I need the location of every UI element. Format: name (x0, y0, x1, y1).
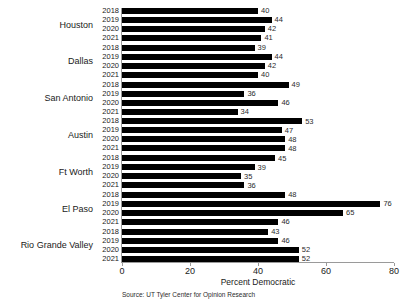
bar-row: 45 (122, 155, 394, 161)
bar-value-label: 34 (241, 108, 249, 116)
bar-value-label: 44 (275, 53, 283, 61)
bar (122, 17, 272, 23)
bar-row: 41 (122, 35, 394, 41)
bar (122, 164, 255, 170)
x-tick-label: 0 (119, 266, 124, 276)
year-axis-labels: 2018201920202021201820192020202120182019… (96, 8, 119, 262)
bar-row: 76 (122, 201, 394, 207)
bar-value-label: 41 (264, 34, 272, 42)
category-axis-labels: HoustonDallasSan AntonioAustinFt WorthEl… (0, 8, 93, 262)
category-label-slot: Ft Worth (0, 155, 93, 188)
bar (122, 219, 278, 225)
bar (122, 91, 244, 97)
bar (122, 229, 268, 235)
source-note: Source: UT Tyler Center for Opinion Rese… (122, 291, 255, 298)
year-label: 2018 (96, 82, 119, 88)
bar-row: 47 (122, 127, 394, 133)
bar-group: 43465252 (122, 229, 394, 262)
category-label-slot: Houston (0, 8, 93, 41)
bar-value-label: 44 (275, 16, 283, 24)
bar-value-label: 42 (268, 62, 276, 70)
year-label: 2021 (96, 256, 119, 262)
bar-row: 35 (122, 173, 394, 179)
bar-value-label: 39 (258, 44, 266, 52)
year-label: 2019 (96, 238, 119, 244)
year-label: 2020 (96, 136, 119, 142)
x-tick-label: 60 (321, 266, 331, 276)
bar-group: 39444240 (122, 45, 394, 78)
bar (122, 54, 272, 60)
bar-row: 43 (122, 229, 394, 235)
bar (122, 247, 299, 253)
year-label: 2019 (96, 17, 119, 23)
bar (122, 109, 238, 115)
bar-row: 46 (122, 238, 394, 244)
bar-value-label: 40 (261, 71, 269, 79)
year-label: 2019 (96, 201, 119, 207)
year-label: 2021 (96, 219, 119, 225)
category-label-slot: San Antonio (0, 82, 93, 115)
bar-row: 52 (122, 247, 394, 253)
category-label: Houston (59, 20, 93, 30)
bar-value-label: 48 (288, 191, 296, 199)
bar (122, 136, 285, 142)
bar-row: 46 (122, 219, 394, 225)
bar-row: 44 (122, 54, 394, 60)
bar-group: 48766546 (122, 192, 394, 225)
bar (122, 127, 282, 133)
year-label: 2019 (96, 54, 119, 60)
year-label-group: 2018201920202021 (96, 82, 119, 115)
bar-row: 42 (122, 63, 394, 69)
bar-value-label: 42 (268, 25, 276, 33)
bar (122, 8, 258, 14)
bar-row: 52 (122, 256, 394, 262)
bar (122, 256, 299, 262)
bar-row: 46 (122, 100, 394, 106)
bar (122, 155, 275, 161)
category-label: El Paso (62, 204, 93, 214)
year-label: 2019 (96, 91, 119, 97)
year-label: 2021 (96, 182, 119, 188)
x-tick-label: 40 (253, 266, 263, 276)
bar (122, 145, 285, 151)
bar-group: 45393536 (122, 155, 394, 188)
bar-row: 40 (122, 8, 394, 14)
year-label: 2019 (96, 164, 119, 170)
bar-row: 48 (122, 145, 394, 151)
year-label: 2018 (96, 118, 119, 124)
bar (122, 45, 255, 51)
x-tick-label: 20 (185, 266, 195, 276)
category-label-slot: Dallas (0, 45, 93, 78)
bar-row: 36 (122, 91, 394, 97)
year-label-group: 2018201920202021 (96, 155, 119, 188)
year-label: 2020 (96, 63, 119, 69)
year-label: 2020 (96, 247, 119, 253)
bar-group: 53474848 (122, 118, 394, 151)
bar-value-label: 35 (244, 173, 252, 181)
bar-groups: 4044424139444240493646345347484845393536… (122, 8, 394, 262)
bar (122, 210, 343, 216)
year-label: 2018 (96, 155, 119, 161)
bar-value-label: 39 (258, 164, 266, 172)
bar (122, 173, 241, 179)
bar-row: 53 (122, 118, 394, 124)
bar-value-label: 36 (247, 90, 255, 98)
bar-row: 65 (122, 210, 394, 216)
bar-value-label: 52 (302, 255, 310, 263)
year-label: 2018 (96, 192, 119, 198)
bar-value-label: 46 (281, 99, 289, 107)
bar (122, 118, 302, 124)
bar-value-label: 48 (288, 136, 296, 144)
category-label: Ft Worth (59, 167, 93, 177)
bar (122, 100, 278, 106)
bar-row: 48 (122, 192, 394, 198)
year-label: 2021 (96, 72, 119, 78)
year-label: 2018 (96, 8, 119, 14)
category-label-slot: Austin (0, 118, 93, 151)
bar (122, 192, 285, 198)
x-axis-ticks: 020406080 (122, 263, 394, 275)
year-label-group: 2018201920202021 (96, 118, 119, 151)
plot-area: 4044424139444240493646345347484845393536… (122, 8, 394, 262)
bar-row: 36 (122, 182, 394, 188)
category-label-slot: Rio Grande Valley (0, 229, 93, 262)
